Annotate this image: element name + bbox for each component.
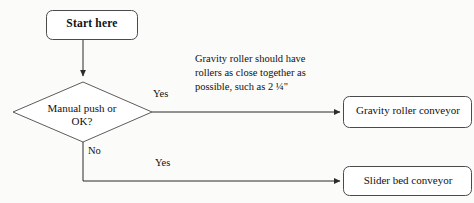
edge-decision-to-slider	[83, 142, 340, 181]
node-start-label: Start here	[46, 17, 138, 31]
edge-label-no: No	[88, 145, 101, 156]
flowchart-canvas: Start here Manual push or OK? Gravity ro…	[0, 0, 474, 203]
edge-label-yes-slider: Yes	[155, 157, 170, 168]
edge-label-yes-gravity: Yes	[153, 88, 168, 99]
annotation-gravity-note: Gravity roller should have rollers as cl…	[195, 52, 330, 94]
node-decision-label: Manual push or OK?	[22, 102, 142, 128]
node-slider-label: Slider bed conveyor	[344, 174, 472, 187]
node-gravity-label: Gravity roller conveyor	[344, 104, 472, 117]
